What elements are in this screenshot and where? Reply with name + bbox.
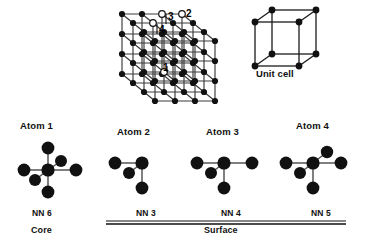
unit-cell-diagram xyxy=(252,7,320,70)
atom-3-cluster xyxy=(191,156,259,194)
lattice-marker-label-4: 4 xyxy=(159,24,165,35)
zone-rules xyxy=(106,221,346,224)
unit-cell-label: Unit cell xyxy=(256,68,294,79)
unit-cell-atoms xyxy=(252,7,320,70)
lattice-atoms xyxy=(119,11,218,104)
core-zone-label: Core xyxy=(31,225,52,235)
lattice-marker-label-2: 2 xyxy=(186,8,192,19)
atom-4-nn-label: NN 5 xyxy=(311,208,331,218)
atom-4-label: Atom 4 xyxy=(296,120,329,131)
surface-zone-label: Surface xyxy=(204,225,238,235)
atom-4-center xyxy=(306,156,319,169)
atom-1-cluster xyxy=(18,142,83,199)
atom-1-nn-label: NN 6 xyxy=(32,208,52,218)
atom-2-nn-label: NN 3 xyxy=(136,208,156,218)
marker-atom-2 xyxy=(179,11,186,18)
marker-atom-3 xyxy=(159,11,166,18)
atom-2-center xyxy=(135,156,148,169)
atom-1-label: Atom 1 xyxy=(20,120,53,131)
atom-2-label: Atom 2 xyxy=(117,126,150,137)
lattice-marker-label-3: 3 xyxy=(168,11,174,22)
atom-1-center xyxy=(41,163,54,176)
figure-canvas: Unit cell 2 3 4 1 Atom 1 Atom 2 Atom 3 A… xyxy=(0,0,365,243)
atom-3-label: Atom 3 xyxy=(206,126,239,137)
atom-3-center xyxy=(217,156,230,169)
lattice-depth-lines xyxy=(122,14,215,101)
marker-atom-4 xyxy=(150,20,157,27)
atom-3-nn-label: NN 4 xyxy=(221,208,241,218)
atom-1-spheres xyxy=(18,142,83,199)
lattice-marker-label-1: 1 xyxy=(163,62,169,73)
atom-4-cluster xyxy=(280,146,348,195)
lattice-diagram xyxy=(119,11,218,104)
atom-2-cluster xyxy=(109,156,149,194)
